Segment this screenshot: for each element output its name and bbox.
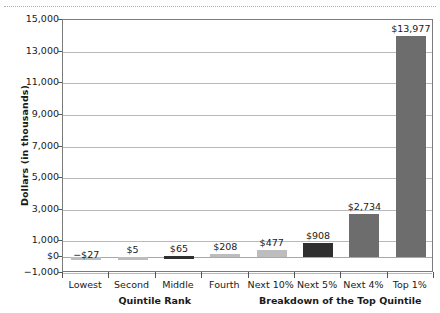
bar-value-label: $2,734 xyxy=(327,202,401,212)
gridline xyxy=(63,83,432,84)
gridline xyxy=(63,147,432,148)
x-axis-tick-mark xyxy=(62,272,63,278)
y-axis-tick-label: −1,000 xyxy=(0,267,59,277)
x-axis-tick-mark xyxy=(201,272,202,278)
gridline xyxy=(63,115,432,116)
gridline xyxy=(63,178,432,179)
y-axis-tick-label: 3,000 xyxy=(0,204,59,214)
x-axis-group-title: Breakdown of the Top Quintile xyxy=(220,295,440,306)
y-axis-tick-label: 15,000 xyxy=(0,14,59,24)
bar-middle[interactable] xyxy=(164,256,194,259)
x-axis-tick-mark xyxy=(108,272,109,278)
y-axis-tick-label: 9,000 xyxy=(0,109,59,119)
bar-next-10[interactable] xyxy=(257,250,287,258)
x-axis-tick-mark xyxy=(155,272,156,278)
top-dotted-rule xyxy=(4,6,436,7)
y-axis-tick-label: 1,000 xyxy=(0,235,59,245)
y-axis-tick-label: 11,000 xyxy=(0,77,59,87)
x-axis-tick-mark xyxy=(433,272,434,278)
bar-value-label: $908 xyxy=(281,231,355,241)
bar-next-4[interactable] xyxy=(349,214,379,257)
x-axis-tick-mark xyxy=(248,272,249,278)
bar-next-5[interactable] xyxy=(303,243,333,257)
y-axis-tick-label: 5,000 xyxy=(0,172,59,182)
gridline xyxy=(63,52,432,53)
x-axis-tick-mark xyxy=(387,272,388,278)
y-axis-tick-label: 7,000 xyxy=(0,141,59,151)
x-axis-tick-label: Top 1% xyxy=(372,280,440,290)
bar-second[interactable] xyxy=(118,257,148,260)
y-axis-tick-label: 13,000 xyxy=(0,46,59,56)
x-axis-tick-mark xyxy=(294,272,295,278)
bar-fourth[interactable] xyxy=(210,254,240,257)
plot-area: −$27$5$65$208$477$908$2,734$13,977 xyxy=(62,19,433,272)
x-axis-tick-mark xyxy=(340,272,341,278)
bar-chart-figure: Dollars (in thousands) 15,00013,00011,00… xyxy=(0,0,440,313)
bar-top-1[interactable] xyxy=(396,36,426,257)
bar-value-label: $13,977 xyxy=(374,24,440,34)
plot-inner: −$27$5$65$208$477$908$2,734$13,977 xyxy=(63,20,432,271)
